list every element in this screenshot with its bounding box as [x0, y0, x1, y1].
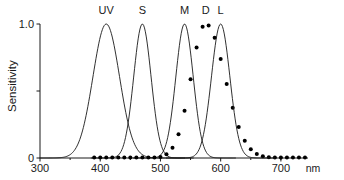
curve-S	[91, 24, 193, 158]
y-axis-title: Sensitivity	[6, 60, 18, 112]
curve-label-UV: UV	[99, 4, 115, 16]
curve-L	[166, 24, 274, 158]
curve-label-L: L	[218, 4, 224, 16]
curve-labels: UVSMDL	[99, 4, 224, 16]
x-tick-label-700: 700	[272, 162, 290, 174]
curve-M	[133, 24, 235, 158]
plot-canvas: UVSMDL 30040050060070001.0 Sensitivity n…	[0, 0, 344, 180]
curve-label-S: S	[139, 4, 146, 16]
x-tick-label-600: 600	[211, 162, 229, 174]
y-axis-ticks	[37, 24, 41, 158]
axes	[37, 24, 309, 162]
curve-D	[92, 24, 307, 160]
y-tick-label-0: 0	[28, 152, 34, 164]
curves	[40, 24, 307, 160]
x-tick-label-400: 400	[91, 162, 109, 174]
curve-UV	[40, 24, 185, 158]
x-axis-unit-label: nm	[306, 162, 321, 174]
x-tick-label-500: 500	[151, 162, 169, 174]
curve-label-D: D	[202, 4, 210, 16]
sensitivity-spectra-figure: UVSMDL 30040050060070001.0 Sensitivity n…	[0, 0, 344, 180]
y-tick-label-1.0: 1.0	[19, 18, 34, 30]
curve-label-M: M	[180, 4, 189, 16]
